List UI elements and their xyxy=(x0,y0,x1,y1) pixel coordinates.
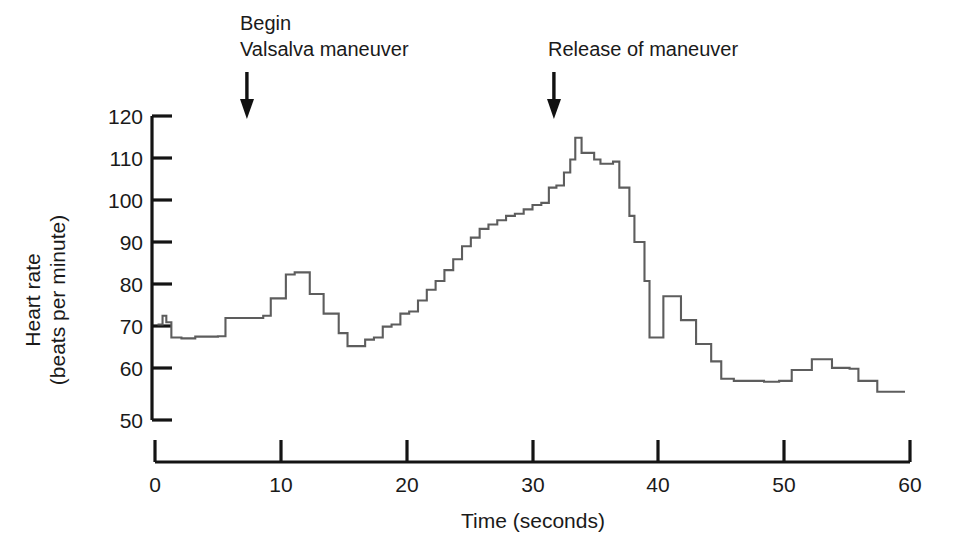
y-axis-title-line1: Heart rate xyxy=(21,253,44,346)
y-tick-label-80: 80 xyxy=(120,273,143,296)
heart-rate-chart-figure: 120 110 100 90 80 70 60 50 Heart rate (b… xyxy=(0,0,953,547)
y-tick-label-70: 70 xyxy=(120,315,143,338)
y-axis-title: Heart rate (beats per minute) xyxy=(21,215,69,385)
x-tick-label-20: 20 xyxy=(395,473,418,496)
annotation-begin-line2: Valsalva maneuver xyxy=(240,38,409,60)
annotation-release-maneuver: Release of maneuver xyxy=(547,38,738,119)
y-tick-label-50: 50 xyxy=(120,409,143,432)
y-tick-label-90: 90 xyxy=(120,231,143,254)
annotation-release-line1: Release of maneuver xyxy=(548,38,738,60)
y-tick-label-60: 60 xyxy=(120,357,143,380)
x-tick-label-60: 60 xyxy=(898,473,921,496)
x-tick-label-30: 30 xyxy=(521,473,544,496)
down-arrow-icon-release xyxy=(547,72,561,119)
x-tick-label-0: 0 xyxy=(149,473,161,496)
y-axis-ticks xyxy=(152,116,172,420)
x-tick-label-40: 40 xyxy=(646,473,669,496)
y-tick-label-110: 110 xyxy=(110,147,143,170)
y-tick-label-100: 100 xyxy=(108,189,143,212)
y-axis-title-line2: (beats per minute) xyxy=(46,215,69,385)
heart-rate-curve xyxy=(158,138,905,392)
y-axis: 120 110 100 90 80 70 60 50 Heart rate (b… xyxy=(21,105,172,432)
annotation-begin-line1: Begin xyxy=(240,12,291,34)
x-tick-label-50: 50 xyxy=(772,473,795,496)
down-arrow-icon-begin xyxy=(240,72,254,119)
annotation-begin-valsalva: Begin Valsalva maneuver xyxy=(240,12,409,119)
x-tick-label-10: 10 xyxy=(269,473,292,496)
x-axis-title: Time (seconds) xyxy=(461,509,605,532)
y-tick-label-120: 120 xyxy=(108,105,143,128)
x-axis: 0 10 20 30 40 50 60 Time (seconds) xyxy=(149,440,922,532)
x-axis-tick-labels: 0 10 20 30 40 50 60 xyxy=(149,473,922,496)
y-axis-tick-labels: 120 110 100 90 80 70 60 50 xyxy=(108,105,143,432)
chart-svg: 120 110 100 90 80 70 60 50 Heart rate (b… xyxy=(0,0,953,547)
x-axis-ticks xyxy=(155,440,910,462)
